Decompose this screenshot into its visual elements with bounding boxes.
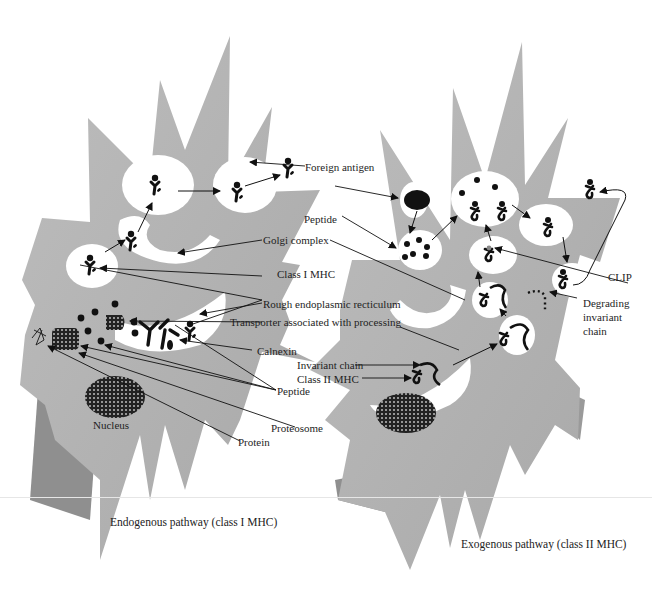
label-calnexin: Calnexin xyxy=(257,345,297,357)
label-protein: Protein xyxy=(238,436,270,448)
label-nucleus: Nucleus xyxy=(93,419,129,431)
label-clip: CLIP xyxy=(608,271,632,283)
label-rough-er: Rough endoplasmic recticulum xyxy=(263,298,400,310)
label-transporter: Transporter associated with processing xyxy=(230,316,401,328)
transporter-shape xyxy=(106,315,125,330)
label-peptide-left: Peptide xyxy=(277,385,310,397)
label-proteosome: Proteosome xyxy=(271,422,323,434)
caption-exogenous: Exogenous pathway (class II MHC) xyxy=(461,538,626,550)
label-invariant-chain: Invariant chain xyxy=(297,359,363,371)
proteosome-shape xyxy=(52,328,79,350)
label-class2-mhc: Class II MHC xyxy=(297,373,359,385)
label-invariant: invariant xyxy=(583,311,622,323)
divider-line xyxy=(0,497,652,498)
nucleus-shape xyxy=(85,376,145,418)
right-nucleus-shape xyxy=(376,393,436,433)
label-golgi-complex: Golgi complex xyxy=(263,234,329,246)
label-peptide-right: Peptide xyxy=(304,213,337,225)
caption-endogenous: Endogenous pathway (class I MHC) xyxy=(110,516,277,528)
label-foreign-antigen: Foreign antigen xyxy=(305,161,374,173)
label-chain: chain xyxy=(583,325,607,337)
foreign-antigen-shape xyxy=(404,190,430,210)
label-degrading: Degrading xyxy=(583,297,629,309)
label-class1-mhc: Class I MHC xyxy=(277,268,335,280)
antigen-processing-diagram xyxy=(0,0,652,593)
golgi-vesicle-2 xyxy=(213,157,277,213)
